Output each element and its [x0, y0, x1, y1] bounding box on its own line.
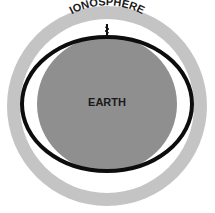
- earth-label: EARTH: [88, 96, 126, 108]
- ionosphere-earth-diagram: IONOSPHERE EARTH: [0, 0, 215, 213]
